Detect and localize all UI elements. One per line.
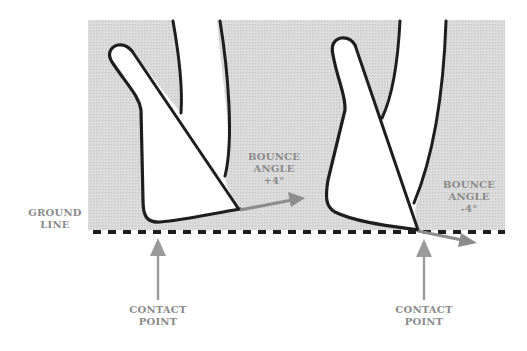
right-contact-line1: CONTACT [389,304,459,316]
left-contact-line2: POINT [123,316,193,328]
left-contact-line1: CONTACT [123,304,193,316]
ground-label-line1: GROUND [20,207,90,219]
right-bounce-angle-label: BOUNCE ANGLE -4° [438,179,500,215]
right-bounce-value: -4° [438,203,500,215]
ground-label-line2: LINE [20,219,90,231]
ground-line-label: GROUND LINE [20,207,90,231]
right-contact-point-label: CONTACT POINT [389,304,459,328]
right-bounce-line2: ANGLE [438,191,500,203]
left-contact-arrow [150,238,166,300]
bounce-angle-diagram: GROUND LINE BOUNCE ANGLE +4° BOUNCE ANGL… [0,0,527,351]
right-bounce-line1: BOUNCE [438,179,500,191]
left-contact-point-label: CONTACT POINT [123,304,193,328]
left-bounce-line2: ANGLE [243,163,305,175]
right-contact-arrow [416,239,432,300]
left-bounce-angle-label: BOUNCE ANGLE +4° [243,151,305,187]
left-bounce-value: +4° [243,175,305,187]
left-bounce-line1: BOUNCE [243,151,305,163]
right-contact-line2: POINT [389,316,459,328]
